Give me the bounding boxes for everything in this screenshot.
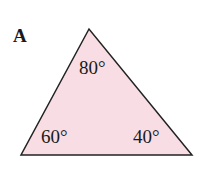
angle-bottom-left: 60°	[41, 126, 68, 148]
angle-top: 80°	[79, 57, 106, 79]
triangle-diagram	[0, 0, 206, 171]
figure-label: A	[13, 25, 27, 47]
angle-bottom-right: 40°	[133, 126, 160, 148]
